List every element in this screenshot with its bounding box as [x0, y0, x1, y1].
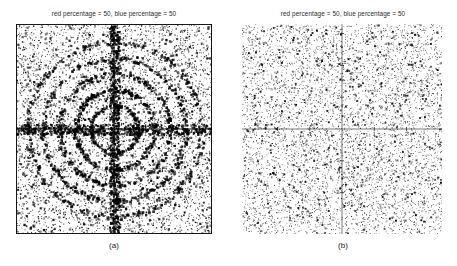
panel-b-scatter-plot	[242, 24, 442, 234]
panel-a: red percentage = 50, blue percentage = 5…	[0, 0, 228, 266]
panel-b-caption: (b)	[229, 240, 457, 251]
panel-a-title: red percentage = 50, blue percentage = 5…	[0, 9, 228, 18]
panel-a-scatter-plot	[16, 24, 212, 234]
panel-a-caption: (a)	[0, 240, 228, 251]
panel-b-title: red percentage = 50, blue percentage = 5…	[229, 9, 457, 18]
panel-b: red percentage = 50, blue percentage = 5…	[229, 0, 457, 266]
figure-container: red percentage = 50, blue percentage = 5…	[0, 0, 457, 266]
